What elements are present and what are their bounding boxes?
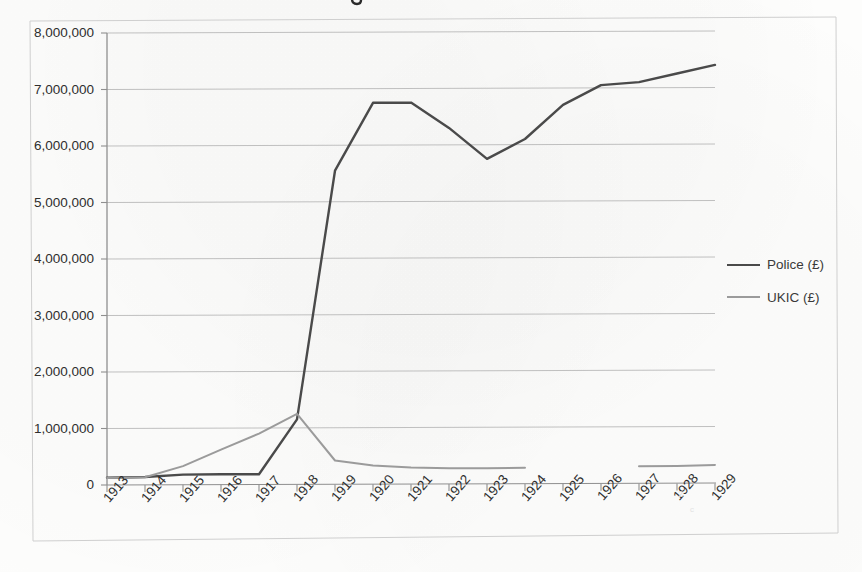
chart-container: 8,000,000 7,000,000 6,000,000 5,000,000 … xyxy=(0,0,862,572)
svg-text:c: c xyxy=(690,505,694,514)
svg-text:2: 2 xyxy=(678,489,683,499)
scan-artifacts: 2 c xyxy=(0,0,862,572)
